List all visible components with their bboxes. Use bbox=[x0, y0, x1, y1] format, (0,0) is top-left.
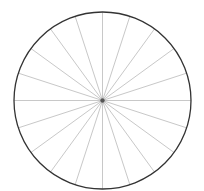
spoke-line bbox=[50, 101, 102, 173]
spoke-line bbox=[18, 73, 102, 100]
spoke-line bbox=[103, 101, 130, 185]
spoke-line bbox=[103, 16, 130, 100]
spoke-line bbox=[31, 48, 103, 100]
spoke-line bbox=[103, 73, 187, 100]
spoke-line bbox=[103, 48, 175, 100]
center-hub-dot bbox=[100, 98, 104, 102]
spoke-line bbox=[18, 101, 102, 128]
spoke-line bbox=[103, 29, 155, 101]
spoke-line bbox=[31, 101, 103, 153]
spoke-line bbox=[103, 101, 187, 128]
spoke-line bbox=[103, 101, 175, 153]
spoked-circle-diagram bbox=[0, 0, 204, 191]
spoke-line bbox=[103, 101, 155, 173]
spoke-line bbox=[75, 101, 102, 185]
spoke-line bbox=[50, 29, 102, 101]
spoke-line bbox=[75, 16, 102, 100]
